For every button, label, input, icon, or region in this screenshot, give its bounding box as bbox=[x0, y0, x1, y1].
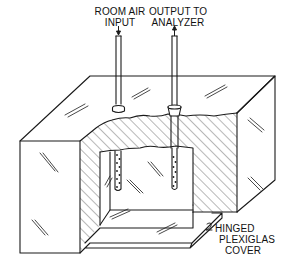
cover-label-line2: PLEXIGLAS bbox=[215, 234, 275, 245]
room-air-label-line2: INPUT bbox=[88, 17, 152, 28]
output-to-analyzer-tube bbox=[168, 36, 181, 190]
front-left-block bbox=[20, 141, 80, 253]
perforation-dots bbox=[116, 154, 176, 188]
cutaway-wall-section bbox=[80, 113, 237, 253]
output-label-line1: OUTPUT TO bbox=[144, 6, 212, 17]
cover-label-line3: COVER bbox=[215, 245, 275, 256]
room-air-label-line1: ROOM AIR bbox=[88, 6, 152, 17]
inner-cavity bbox=[100, 146, 193, 205]
cover-label-line1: HINGED bbox=[215, 223, 275, 234]
hinged-plexiglas-cover-plate bbox=[80, 212, 222, 253]
right-face bbox=[237, 76, 275, 212]
output-to-analyzer-label: OUTPUT TO ANALYZER bbox=[144, 6, 212, 28]
inner-perforated-tube bbox=[115, 151, 121, 191]
room-air-input-tube bbox=[113, 36, 125, 113]
output-label-line2: ANALYZER bbox=[144, 17, 212, 28]
room-air-input-label: ROOM AIR INPUT bbox=[88, 6, 152, 28]
diagram-canvas: ROOM AIR INPUT OUTPUT TO ANALYZER HINGED… bbox=[0, 0, 287, 274]
hinged-plexiglas-cover-label: HINGED PLEXIGLAS COVER bbox=[215, 223, 275, 256]
